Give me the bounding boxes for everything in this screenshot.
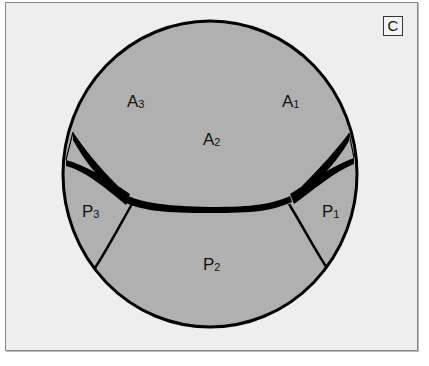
valve-diagram: A3 A1 A2 P3 P1 P2	[0, 0, 429, 366]
valve-outline	[63, 21, 357, 327]
